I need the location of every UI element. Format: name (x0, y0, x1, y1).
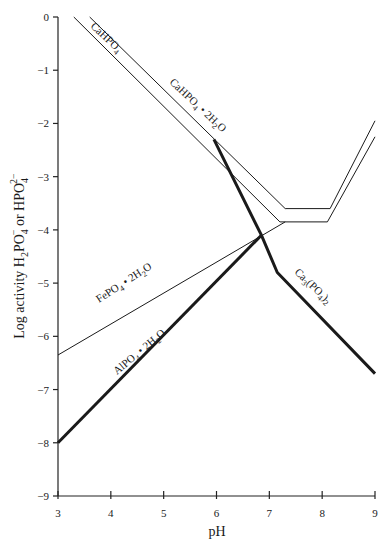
label-ca3po42: Ca3(PO4)2 (291, 266, 335, 308)
y-tick-label: −9 (37, 490, 49, 502)
x-tick-label: 5 (161, 507, 167, 519)
x-tick-label: 3 (55, 507, 61, 519)
y-axis-ticks: 0−1−2−3−4−5−6−7−8−9 (37, 11, 58, 502)
x-axis-ticks: 3456789 (55, 491, 378, 519)
y-tick-label: −2 (37, 117, 49, 129)
label-cahpo4-2h2o: CaHPO4 • 2H2O (166, 76, 230, 137)
label-alpo4-2h2o: AlPO4 • 2H2O (111, 326, 170, 379)
x-tick-label: 9 (372, 507, 378, 519)
label-fepo4-2h2o: FePO4 • 2H2O (94, 260, 156, 307)
series-labels: CaHPO4 CaHPO4 • 2H2O FePO4 • 2H2O AlPO4 … (87, 20, 335, 379)
x-tick-label: 4 (108, 507, 114, 519)
phosphate-solubility-chart: 0−1−2−3−4−5−6−7−8−9 3456789 CaHPO4 CaHPO… (0, 0, 391, 550)
x-tick-label: 8 (319, 507, 325, 519)
y-tick-label: −8 (37, 437, 49, 449)
label-cahpo4: CaHPO4 (87, 20, 125, 57)
x-tick-label: 7 (267, 507, 273, 519)
series-line-fepo4-2h2o (58, 222, 285, 355)
y-tick-label: −3 (37, 171, 49, 183)
y-tick-label: −6 (37, 330, 49, 342)
series-line-ca3-po4-2 (214, 139, 375, 373)
y-tick-label: −7 (37, 384, 49, 396)
y-axis-label: Log activity H2PO4− or HPO42− (8, 173, 30, 339)
series-lines (58, 17, 375, 443)
y-tick-label: 0 (44, 11, 50, 23)
x-tick-label: 6 (214, 507, 220, 519)
axes (58, 17, 375, 496)
y-tick-label: −4 (37, 224, 49, 236)
x-axis-label: pH (208, 524, 225, 539)
y-tick-label: −5 (37, 277, 49, 289)
y-tick-label: −1 (37, 64, 49, 76)
